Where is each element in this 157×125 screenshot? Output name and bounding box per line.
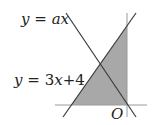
origin-label: O — [111, 105, 123, 123]
label-line2-lhs: y — [14, 71, 22, 89]
coordinate-diagram: y = ax y = 3x+4 O — [0, 0, 157, 125]
label-y-ax-rhs: ax — [52, 10, 69, 28]
label-line2-eq: = — [27, 71, 40, 89]
label-y-ax-lhs: y — [21, 10, 29, 28]
label-y-ax-eq: = — [34, 10, 47, 28]
label-origin: O — [111, 107, 123, 122]
label-y-3x-plus-4: y = 3x+4 — [14, 73, 85, 88]
label-line2-var: x — [54, 71, 62, 89]
label-line2-const: +4 — [63, 71, 85, 89]
label-line2-coef: 3 — [45, 71, 55, 89]
label-y-ax: y = ax — [21, 12, 69, 27]
